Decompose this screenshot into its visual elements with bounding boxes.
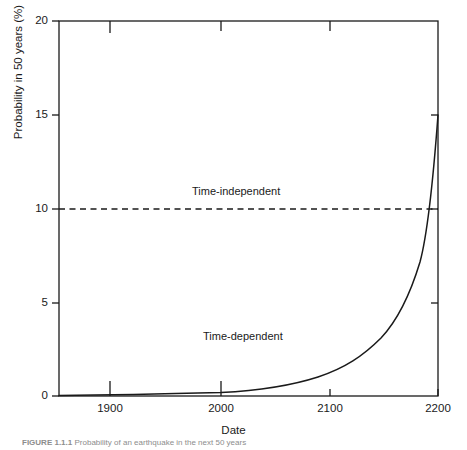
y-tick-label-5: 5 bbox=[24, 297, 48, 309]
y-axis-label: Probability in 50 years (%) bbox=[12, 0, 24, 162]
y-tick-label-15: 15 bbox=[24, 109, 48, 121]
y-tick-label-0: 0 bbox=[24, 390, 48, 402]
x-tick-label-2200: 2200 bbox=[408, 403, 467, 415]
chart-plot-area bbox=[0, 0, 467, 450]
x-tick-label-1900: 1900 bbox=[80, 403, 140, 415]
y-tick-label-10: 10 bbox=[24, 203, 48, 215]
figure-caption: FIGURE 1.1.1 Probability of an earthquak… bbox=[22, 438, 452, 448]
figure-caption-number: FIGURE 1.1.1 bbox=[22, 438, 72, 447]
annotation-time-independent: Time-independent bbox=[192, 185, 280, 197]
annotation-time-dependent: Time-dependent bbox=[203, 330, 283, 342]
y-tick-label-20: 20 bbox=[24, 15, 48, 27]
x-tick-label-2100: 2100 bbox=[300, 403, 360, 415]
figure-caption-text: Probability of an earthquake in the next… bbox=[74, 438, 246, 447]
y-axis-ticks bbox=[52, 21, 59, 396]
x-tick-label-2000: 2000 bbox=[191, 403, 251, 415]
figure-container: 20 15 10 5 0 1900 2000 2100 2200 Probabi… bbox=[0, 0, 467, 450]
x-axis-label: Date bbox=[0, 424, 467, 436]
